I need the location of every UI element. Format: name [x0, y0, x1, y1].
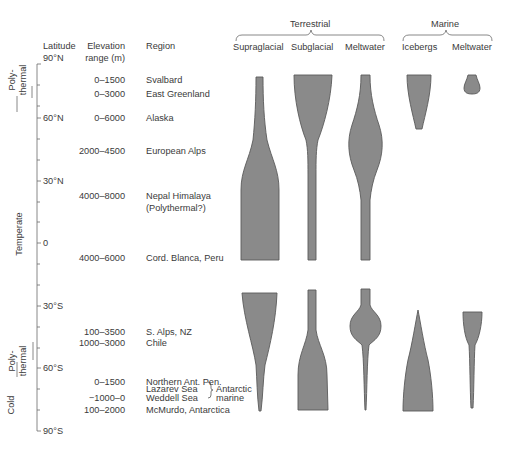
icebergs-upper-shape — [407, 75, 431, 129]
zone-polythermal-north-l1: Poly- — [7, 56, 17, 104]
zone-polythermal-north-l2: thermal — [18, 56, 28, 104]
region-nepal-himalaya-note: (Polythermal?) — [146, 203, 206, 213]
region-alaska: Alaska — [146, 113, 174, 123]
region-mcmurdo: McMurdo, Antarctica — [146, 405, 230, 415]
subglacial-lower-shape — [298, 290, 328, 410]
region-chile: Chile — [146, 338, 167, 348]
elevation-mcmurdo: 100–2000 — [70, 405, 125, 415]
icebergs-header: Icebergs — [402, 42, 437, 52]
region-east-greenland: East Greenland — [146, 89, 210, 99]
marine-group-label: Marine — [431, 19, 459, 29]
lat-tick-60n: 60°N — [43, 113, 64, 123]
supraglacial-header: Supraglacial — [233, 42, 284, 52]
elevation-svalbard: 0–1500 — [70, 75, 125, 85]
icebergs-lower-shape — [403, 310, 433, 411]
elevation-east-greenland: 0–3000 — [70, 89, 125, 99]
terrestrial-brace — [236, 30, 384, 41]
antarctic-marine-label-line2: marine — [216, 393, 244, 403]
elevation-alaska: 0–6000 — [70, 113, 125, 123]
lat-tick-0: 0 — [43, 238, 48, 248]
elevation-northern-ant-pen: 0–1500 — [70, 377, 125, 387]
marine-meltwater-lower-shape — [463, 312, 482, 408]
subglacial-upper-shape — [294, 75, 332, 260]
zone-polythermal-south-l1: Poly- — [7, 337, 17, 385]
elevation-header-line1: Elevation — [82, 41, 125, 51]
elevation-european-alps: 2000–4500 — [70, 146, 125, 156]
region-nepal-himalaya: Nepal Himalaya — [146, 191, 211, 201]
lat-tick-90n: 90°N — [43, 53, 64, 63]
zone-polythermal-south-l2: thermal — [18, 337, 28, 385]
region-european-alps: European Alps — [146, 146, 206, 156]
terrestrial-group-label: Terrestrial — [290, 19, 330, 29]
lat-tick-90s: 90°S — [43, 426, 63, 436]
elevation-chile: 1000–3000 — [70, 338, 125, 348]
zone-cold: Cold — [6, 385, 16, 425]
terrestrial-meltwater-lower-shape — [350, 289, 381, 410]
latitude-header: Latitude — [43, 41, 76, 51]
region-weddell-sea: Weddell Sea — [146, 393, 198, 403]
zone-temperate: Temperate — [14, 209, 24, 259]
terrestrial-meltwater-upper-shape — [349, 75, 382, 260]
subglacial-header: Subglacial — [291, 42, 333, 52]
region-svalbard: Svalbard — [146, 75, 182, 85]
marine-brace — [403, 30, 492, 41]
marine-meltwater-upper-shape — [464, 75, 480, 94]
region-cord-blanca: Cord. Blanca, Peru — [146, 253, 224, 263]
supraglacial-upper-shape — [241, 77, 279, 260]
elevation-lazarev-weddell: −1000–0 — [70, 393, 125, 403]
region-s-alps-nz: S. Alps, NZ — [146, 327, 192, 337]
elevation-s-alps-nz: 100–3500 — [70, 327, 125, 337]
elevation-header-line2: range (m) — [80, 53, 125, 63]
region-header: Region — [146, 41, 175, 51]
lat-tick-30n: 30°N — [43, 176, 64, 186]
elevation-nepal-himalaya: 4000–8000 — [70, 191, 125, 201]
terrestrial-meltwater-header: Meltwater — [345, 42, 385, 52]
marine-meltwater-header: Meltwater — [452, 42, 492, 52]
elevation-cord-blanca: 4000–6000 — [70, 253, 125, 263]
lat-tick-30s: 30°S — [43, 301, 63, 311]
lat-tick-60s: 60°S — [43, 363, 63, 373]
